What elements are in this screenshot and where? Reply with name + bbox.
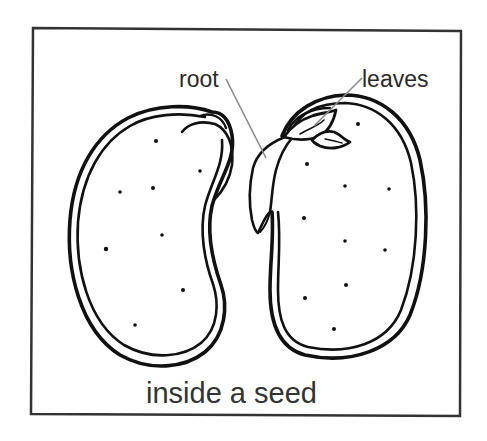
right-cotyledon-dots: [302, 122, 391, 331]
leaves-leader-line: [314, 78, 362, 126]
seed-diagram: root leaves inside a seed: [0, 0, 487, 441]
root-label: root: [179, 68, 219, 91]
left-cotyledon-dots: [104, 139, 202, 327]
leaves-label: leaves: [362, 68, 428, 91]
left-cotyledon: [69, 107, 232, 366]
diagram-caption: inside a seed: [146, 379, 317, 408]
